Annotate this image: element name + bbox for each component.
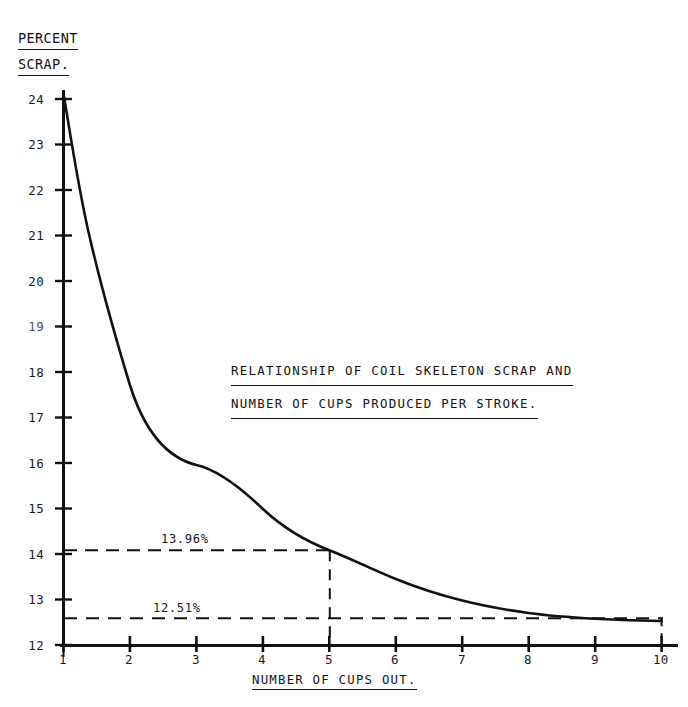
chart-caption-line1: RELATIONSHIP OF COIL SKELETON SCRAP AND [231, 358, 573, 386]
x-tick-label-6: 6 [391, 652, 399, 667]
x-tick-label-10: 10 [653, 652, 669, 667]
y-tick-label-12: 12 [10, 638, 44, 653]
chart-caption: RELATIONSHIP OF COIL SKELETON SCRAP AND … [231, 358, 573, 424]
x-tick-label-9: 9 [591, 652, 599, 667]
y-tick-label-23: 23 [10, 137, 44, 152]
y-axis-title-line2: SCRAP. [18, 54, 69, 76]
x-tick-label-4: 4 [258, 652, 266, 667]
chart-background [0, 0, 688, 707]
y-tick-label-13: 13 [10, 592, 44, 607]
y-tick-label-18: 18 [10, 365, 44, 380]
y-tick-label-15: 15 [10, 501, 44, 516]
y-tick-label-19: 19 [10, 319, 44, 334]
y-tick-label-21: 21 [10, 228, 44, 243]
y-tick-label-24: 24 [10, 92, 44, 107]
y-tick-label-20: 20 [10, 274, 44, 289]
chart-caption-line2: NUMBER OF CUPS PRODUCED PER STROKE. [231, 391, 538, 419]
y-axis-title: PERCENT SCRAP. [18, 28, 78, 80]
annotation-label-1251: 12.51% [153, 601, 201, 615]
y-tick-label-16: 16 [10, 456, 44, 471]
y-tick-label-14: 14 [10, 547, 44, 562]
x-tick-label-8: 8 [524, 652, 532, 667]
x-axis-title: NUMBER OF CUPS OUT. [252, 672, 417, 690]
scrap-percentage-chart [0, 0, 688, 707]
y-tick-label-17: 17 [10, 410, 44, 425]
y-axis-title-line1: PERCENT [18, 28, 78, 50]
y-tick-label-22: 22 [10, 183, 44, 198]
x-tick-label-1: 1 [59, 652, 67, 667]
annotation-label-1396: 13.96% [161, 532, 209, 546]
x-tick-label-3: 3 [192, 652, 200, 667]
x-tick-label-5: 5 [325, 652, 333, 667]
x-tick-label-7: 7 [458, 652, 466, 667]
x-tick-label-2: 2 [125, 652, 133, 667]
